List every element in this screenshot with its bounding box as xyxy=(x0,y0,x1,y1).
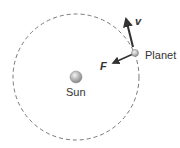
planet-icon xyxy=(132,50,139,57)
sun-label: Sun xyxy=(66,86,86,98)
force-arrow xyxy=(113,54,133,63)
orbit-diagram xyxy=(0,0,180,148)
planet-label: Planet xyxy=(145,49,176,61)
sun-icon xyxy=(70,71,82,83)
velocity-label: v xyxy=(135,15,141,27)
force-label: F xyxy=(100,60,107,72)
